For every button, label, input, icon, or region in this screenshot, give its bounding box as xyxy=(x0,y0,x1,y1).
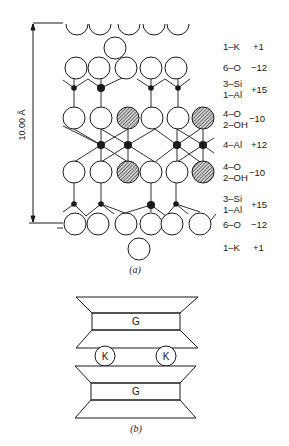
o-oh-row-upper xyxy=(63,107,214,129)
layer-label: 1–Al xyxy=(223,89,242,100)
caption-b: (b) xyxy=(130,423,142,435)
layer-charge: −10 xyxy=(249,167,265,178)
al-row xyxy=(97,141,207,149)
figure-a xyxy=(29,23,216,260)
layer-label: 1–K xyxy=(223,242,241,253)
layer-charge: +1 xyxy=(253,242,264,253)
layer-charge: +12 xyxy=(251,139,267,150)
layer-label: 4–Al xyxy=(223,139,242,150)
layer-label: 3–Si xyxy=(223,78,242,89)
bond-network xyxy=(57,77,216,228)
layer-label: 1–Al xyxy=(223,204,242,215)
o-oh-row-lower xyxy=(63,161,214,183)
k-atom-bottom xyxy=(128,238,150,260)
diagram-canvas: 10.00 Å 1–K +1 6–O −12 3–Si 1–Al +15 4–O… xyxy=(0,0,289,446)
layer-charge: −10 xyxy=(249,113,265,124)
k-atom-top xyxy=(104,37,126,59)
sheet-bottom-label: G xyxy=(132,386,140,397)
layer-label: 4–O xyxy=(223,161,241,172)
dimension-label: 10.00 Å xyxy=(17,109,27,140)
layer-charge: +15 xyxy=(251,199,267,210)
top-k-arcs xyxy=(66,24,189,35)
layer-charge: +1 xyxy=(253,41,264,52)
layer-label: 2–OH xyxy=(223,119,248,130)
layer-charge: −12 xyxy=(251,62,267,73)
layer-label: 4–O xyxy=(223,108,241,119)
k-ion-left-label: K xyxy=(102,351,109,362)
oxygen-row-top xyxy=(65,57,187,79)
layer-label: 2–OH xyxy=(223,172,248,183)
layer-label: 1–K xyxy=(223,41,241,52)
oxygen-row-bottom xyxy=(64,213,211,235)
k-ion-right-label: K xyxy=(163,351,170,362)
sheet-top-label: G xyxy=(132,316,140,327)
dimension-arrow xyxy=(29,23,63,223)
si-al-row-bottom xyxy=(71,201,179,209)
caption-a: (a) xyxy=(129,264,141,276)
layer-label: 6–O xyxy=(223,62,241,73)
si-al-row-top xyxy=(71,84,181,92)
layer-charge: −12 xyxy=(251,219,267,230)
layer-labels: 1–K +1 6–O −12 3–Si 1–Al +15 4–O 2–OH −1… xyxy=(223,41,267,253)
layer-label: 6–O xyxy=(223,219,241,230)
layer-charge: +15 xyxy=(251,84,267,95)
layer-label: 3–Si xyxy=(223,193,242,204)
